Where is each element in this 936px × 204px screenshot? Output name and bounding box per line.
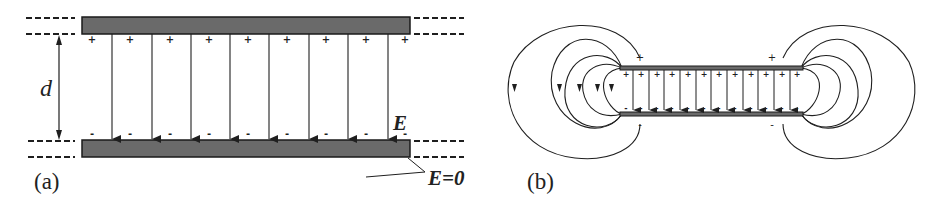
- panel-b-finite-plates: +-+-+-+-+-+-+-+-+-+-+-+- + + - -: [508, 25, 915, 158]
- negative-charge-marker: -: [717, 104, 720, 113]
- panel-b-label: (b): [527, 170, 554, 193]
- edge-charge-markers: + + - -: [636, 52, 776, 130]
- distance-label: d: [40, 76, 52, 100]
- negative-charge-marker: -: [624, 104, 627, 113]
- positive-charge-marker: +: [88, 34, 96, 45]
- negative-charge-marker: -: [168, 128, 172, 139]
- negative-charge-marker: -: [764, 104, 767, 113]
- svg-text:-: -: [770, 119, 774, 130]
- positive-charge-marker: +: [794, 70, 801, 79]
- panel-a-infinite-plates: +-+-+-+-+-+-+-+-+-: [26, 17, 464, 177]
- positive-charge-marker: +: [779, 70, 786, 79]
- positive-charge-marker: +: [669, 70, 676, 79]
- negative-charge-marker: -: [655, 104, 658, 113]
- positive-charge-marker: +: [401, 34, 409, 45]
- panel-a-label: (a): [34, 170, 60, 193]
- negative-charge-marker: -: [246, 128, 250, 139]
- diagram-canvas: +-+-+-+-+-+-+-+-+-: [0, 0, 936, 204]
- negative-charge-marker: -: [702, 104, 705, 113]
- negative-charge-marker: -: [364, 128, 368, 139]
- positive-charge-marker: +: [654, 70, 661, 79]
- negative-charge-marker: -: [795, 104, 798, 113]
- negative-charge-marker: -: [639, 104, 642, 113]
- negative-charge-marker: -: [686, 104, 689, 113]
- positive-charge-marker: +: [322, 34, 330, 45]
- positive-plate: [620, 66, 803, 70]
- svg-text:+: +: [768, 52, 776, 63]
- fringe-field-loops-right: [783, 25, 915, 158]
- fringe-field-loops-left: [508, 25, 640, 158]
- positive-charge-marker: +: [205, 34, 213, 45]
- negative-charge-marker: -: [207, 128, 211, 139]
- positive-charge-marker: +: [732, 70, 739, 79]
- positive-charge-marker: +: [763, 70, 770, 79]
- positive-charge-marker: +: [126, 34, 134, 45]
- negative-charge-marker: -: [780, 104, 783, 113]
- zero-field-leader-line: [366, 158, 425, 177]
- distance-dimension-arrow: [56, 35, 62, 140]
- positive-charge-marker: +: [701, 70, 708, 79]
- negative-charge-marker: -: [128, 128, 132, 139]
- positive-charge-marker: +: [362, 34, 370, 45]
- positive-plate: [82, 17, 410, 34]
- negative-charge-marker: -: [324, 128, 328, 139]
- field-lines: [112, 34, 388, 139]
- fringe-field-arrows-left: [512, 84, 614, 92]
- zero-field-label: E=0: [428, 168, 464, 189]
- negative-charge-marker: -: [733, 104, 736, 113]
- negative-plate: [82, 140, 410, 157]
- svg-text:-: -: [638, 119, 642, 130]
- field-label: E: [393, 113, 407, 134]
- negative-charge-marker: -: [670, 104, 673, 113]
- charge-markers: +-+-+-+-+-+-+-+-+-: [88, 34, 409, 139]
- positive-charge-marker: +: [166, 34, 174, 45]
- negative-charge-marker: -: [90, 128, 94, 139]
- positive-charge-marker: +: [748, 70, 755, 79]
- negative-charge-marker: -: [285, 128, 289, 139]
- svg-text:+: +: [636, 52, 644, 63]
- positive-charge-marker: +: [638, 70, 645, 79]
- capacitor-field-diagram: +-+-+-+-+-+-+-+-+-: [0, 0, 936, 204]
- positive-charge-marker: +: [685, 70, 692, 79]
- positive-charge-marker: +: [283, 34, 291, 45]
- negative-plate: [620, 112, 803, 116]
- positive-charge-marker: +: [623, 70, 630, 79]
- negative-charge-marker: -: [749, 104, 752, 113]
- positive-charge-marker: +: [716, 70, 723, 79]
- positive-charge-marker: +: [244, 34, 252, 45]
